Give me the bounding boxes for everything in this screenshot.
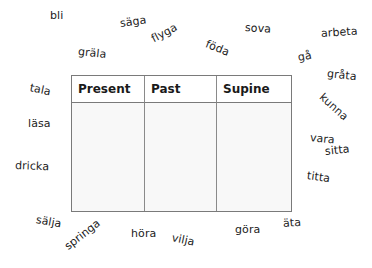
verb-word: äta [283, 217, 302, 229]
verb-word: föda [204, 38, 231, 57]
verb-word: läsa [28, 118, 51, 129]
verb-word: gräla [77, 46, 107, 60]
verb-word: titta [306, 170, 331, 184]
header-past: Past [145, 76, 217, 103]
verb-word: springa [63, 218, 103, 252]
verb-word: höra [131, 228, 156, 239]
header-present: Present [72, 76, 145, 103]
verb-conjugation-table: Present Past Supine [71, 75, 292, 212]
verb-word: arbeta [321, 25, 358, 39]
verb-word: dricka [15, 160, 50, 172]
verb-word: flyga [149, 22, 179, 45]
verb-word: bli [50, 10, 63, 21]
present-column-cell[interactable] [72, 103, 145, 211]
verb-word: sitta [324, 143, 350, 157]
verb-word: tala [29, 82, 52, 97]
verb-word: kunna [317, 91, 350, 122]
verb-word: gå [297, 50, 313, 63]
verb-word: sälja [35, 214, 62, 229]
verb-word: sova [245, 22, 272, 35]
verb-word: göra [235, 224, 260, 235]
past-column-cell[interactable] [145, 103, 217, 211]
verb-word: vilja [171, 232, 196, 248]
verb-word: säga [119, 14, 147, 29]
header-supine: Supine [217, 76, 291, 103]
supine-column-cell[interactable] [217, 103, 291, 211]
verb-word: gråta [326, 68, 357, 82]
